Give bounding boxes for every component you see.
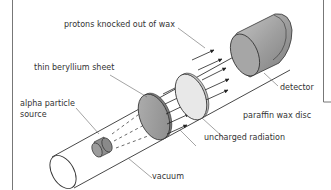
label-uncharged-radiation: uncharged radiation (204, 133, 285, 142)
frame-right (324, 0, 331, 102)
detector (225, 14, 292, 80)
label-alpha-particle: alpha particle (20, 99, 75, 108)
label-paraffin-wax-disc: paraffin wax disc (243, 111, 311, 120)
label-detector: detector (280, 83, 314, 92)
label-source: source (20, 110, 47, 119)
label-protons-knocked-out-of-wax: protons knocked out of wax (64, 20, 175, 29)
label-thin-beryllium-sheet: thin beryllium sheet (34, 63, 114, 72)
beryllium-sheet (132, 89, 178, 145)
diagram-canvas: protons knocked out of wax thin berylliu… (0, 0, 331, 190)
label-vacuum: vacuum (152, 172, 184, 181)
alpha-source (90, 136, 114, 158)
